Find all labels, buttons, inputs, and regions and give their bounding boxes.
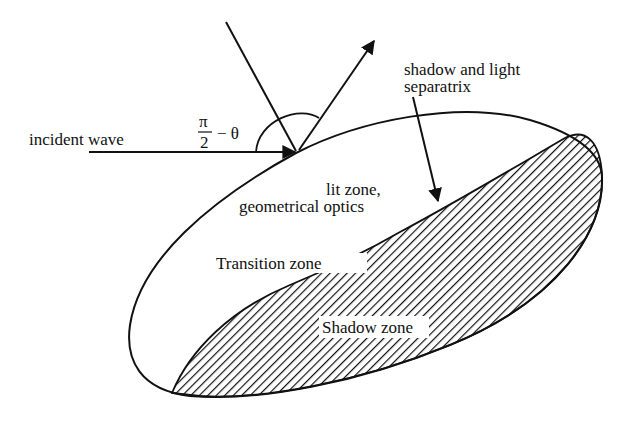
angle-label: π 2 − θ xyxy=(198,112,239,152)
separatrix-label-line2: separatrix xyxy=(404,77,472,96)
geometrical-optics-label: geometrical optics xyxy=(239,197,364,216)
reflected-wave-arrow xyxy=(299,41,374,150)
angle-suffix: − θ xyxy=(217,124,239,143)
angle-denominator: 2 xyxy=(200,133,209,152)
angle-numerator: π xyxy=(199,112,208,131)
incident-wave-label: incident wave xyxy=(29,130,124,149)
shadow-zone-label: Shadow zone xyxy=(322,318,413,337)
transition-zone-label: Transition zone xyxy=(216,254,322,273)
scattering-diagram: incident wave π 2 − θ shadow and light s… xyxy=(0,0,633,437)
